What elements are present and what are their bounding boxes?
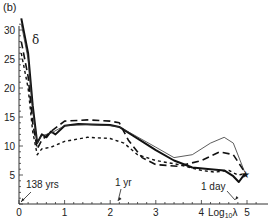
x-tick-label: 1: [62, 207, 68, 218]
line-chart: 01234551015202530Log10λ ★ 138 yrs1 yr1 d…: [0, 0, 270, 220]
y-tick-label: 20: [4, 83, 16, 94]
y-tick-label: 30: [4, 25, 16, 36]
plot-lines: ★: [21, 18, 249, 182]
x-tick-label: 4: [199, 207, 205, 218]
annotation-label: 138 yrs: [26, 179, 59, 190]
annotations: 138 yrs1 yr1 day: [21, 177, 239, 202]
y-tick-label: 25: [4, 54, 16, 65]
x-axis-label: Log10λ: [208, 207, 237, 219]
series-line-dotted: [21, 53, 244, 175]
x-tick-label: 0: [16, 207, 22, 218]
series-line-solid-thick: [21, 18, 244, 182]
series-line-dashed: [21, 42, 244, 173]
annotation-label: 1 day: [201, 181, 225, 192]
x-tick-label: 2: [107, 207, 113, 218]
y-tick-label: 5: [9, 170, 15, 181]
y-tick-label: 15: [4, 112, 16, 123]
x-tick-label: 5: [244, 207, 250, 218]
annotation-label: 1 yr: [115, 177, 132, 188]
x-tick-label: 3: [153, 207, 159, 218]
annotation-arrow-icon: [227, 191, 235, 200]
y-tick-label: 10: [4, 141, 16, 152]
star-marker-icon: ★: [241, 169, 250, 180]
